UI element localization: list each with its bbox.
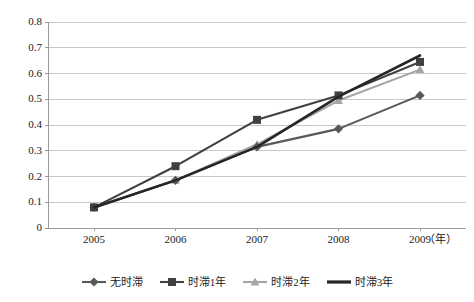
y-axis-tick-label: 0.2 [8, 171, 42, 182]
y-axis-tick-label: 0 [8, 222, 42, 233]
legend-label: 时滞3年 [355, 276, 394, 288]
legend-marker-none-icon [326, 276, 352, 288]
chart-series-0 [89, 91, 424, 212]
chart-series-3 [94, 55, 420, 207]
legend-marker-diamond-icon [81, 276, 107, 288]
x-axis-tick-label: 2007 [227, 233, 287, 245]
x-axis-tick-label: 2008 [309, 233, 369, 245]
legend-label: 时滞1年 [188, 276, 227, 288]
legend-item-3[interactable]: 时滞3年 [326, 276, 394, 288]
y-axis-tick-label: 0.3 [8, 145, 42, 156]
y-axis-tick-label: 0.8 [8, 16, 42, 27]
y-axis-tick-label: 0.4 [8, 119, 42, 130]
legend-item-0[interactable]: 无时滞 [81, 276, 143, 288]
y-axis-tick-label: 0.7 [8, 42, 42, 53]
x-axis-tick-label: 2005 [64, 233, 124, 245]
chart-plot-area [0, 0, 474, 302]
chart-series-1 [90, 58, 424, 211]
y-axis-tick-label: 0.1 [8, 196, 42, 207]
y-axis-tick-label: 0.5 [8, 93, 42, 104]
y-axis-tick-labels: 0.80.70.60.50.40.30.20.10 [8, 0, 42, 250]
legend-label: 时滞2年 [271, 276, 310, 288]
legend-item-2[interactable]: 时滞2年 [242, 276, 310, 288]
legend-label: 无时滞 [110, 276, 143, 288]
chart-axes [45, 22, 420, 231]
x-axis-unit-label: （年） [424, 233, 470, 245]
legend-marker-square-icon [159, 276, 185, 288]
legend-item-1[interactable]: 时滞1年 [159, 276, 227, 288]
chart-series-2 [90, 65, 425, 211]
legend-marker-triangle-icon [242, 276, 268, 288]
line-chart: 0.80.70.60.50.40.30.20.10 20052006200720… [0, 0, 474, 302]
x-axis-tick-label: 2006 [146, 233, 206, 245]
y-axis-tick-label: 0.6 [8, 68, 42, 79]
chart-legend: 无时滞时滞1年时滞2年时滞3年 [0, 272, 474, 292]
chart-gridlines [48, 22, 466, 228]
